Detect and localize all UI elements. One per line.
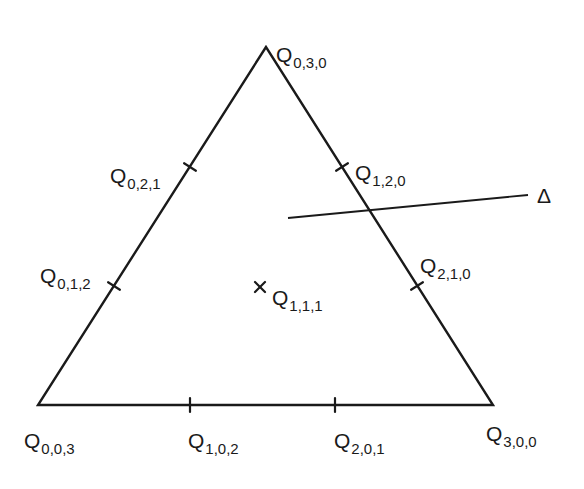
tick-mark-q012 [108,282,120,290]
label-q102: Q1,0,2 [188,429,239,457]
label-subscript: 0,1,2 [57,275,90,292]
point-labels: Q0,3,0Q0,2,1Q0,1,2Q1,2,0Q2,1,0Q1,1,1Q0,0… [24,43,537,457]
label-subscript: 1,2,0 [372,172,405,189]
label-q201: Q2,0,1 [334,429,385,457]
label-base: Q [355,161,371,184]
label-base: Q [188,429,204,452]
label-q210: Q2,1,0 [420,254,471,282]
control-point-markers [108,163,423,412]
line-delta [288,195,528,218]
label-q021: Q0,2,1 [110,164,161,192]
label-q111: Q1,1,1 [272,286,323,314]
label-subscript: 2,0,1 [351,440,384,457]
label-q120: Q1,2,0 [355,161,406,189]
label-subscript: 0,0,3 [41,440,74,457]
label-base: Q [486,422,502,445]
label-base: Q [334,429,350,452]
label-base: Q [272,286,288,309]
label-subscript: 0,3,0 [293,54,326,71]
label-q030: Q0,3,0 [276,43,327,71]
label-subscript: 3,0,0 [503,433,536,450]
label-base: Q [110,164,126,187]
label-subscript: 1,1,1 [289,297,322,314]
label-base: Q [276,43,292,66]
label-base: Q [420,254,436,277]
tick-mark-q120 [336,163,348,170]
label-subscript: 2,1,0 [437,265,470,282]
triangle-diagram: Q0,3,0Q0,2,1Q0,1,2Q1,2,0Q2,1,0Q1,1,1Q0,0… [0,0,584,489]
label-q012: Q0,1,2 [40,264,91,292]
label-q300: Q3,0,0 [486,422,537,450]
control-triangle [38,47,493,405]
delta-label: Δ [537,184,551,207]
label-base: Q [40,264,56,287]
label-base: Q [24,429,40,452]
label-subscript: 1,0,2 [205,440,238,457]
label-q003: Q0,0,3 [24,429,75,457]
label-subscript: 0,2,1 [127,175,160,192]
